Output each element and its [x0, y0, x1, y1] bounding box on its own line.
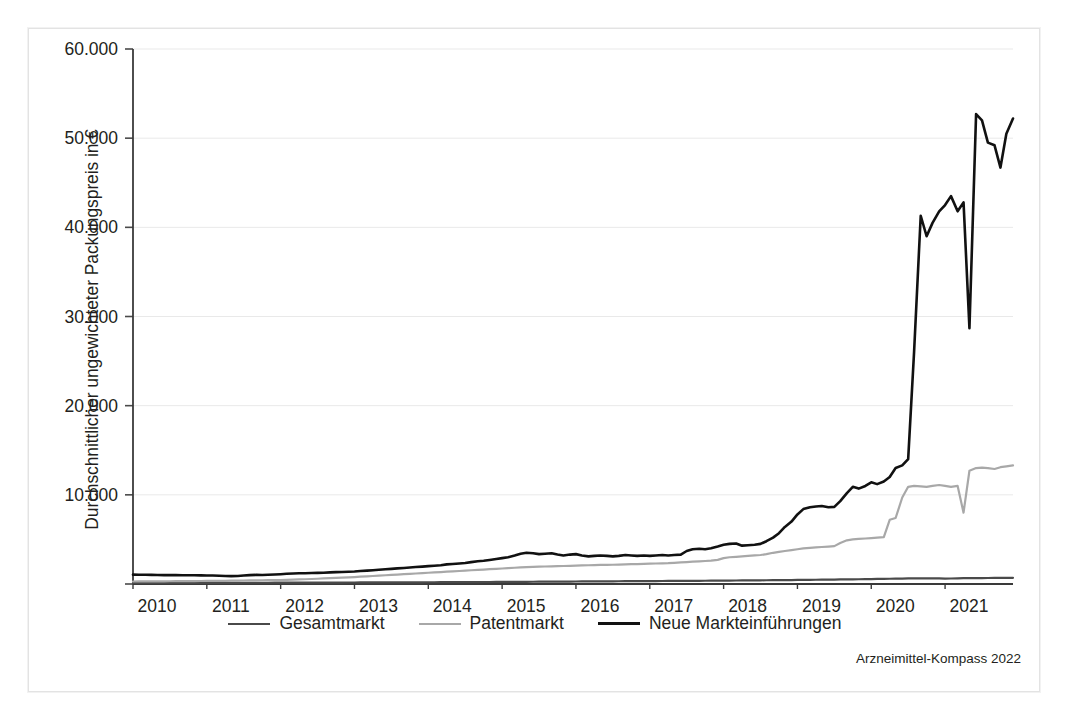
legend-label-patentmarkt: Patentmarkt [470, 613, 564, 634]
legend-swatch-neue-markteinfuehrungen [598, 622, 640, 625]
y-tick-label: 40.000 [64, 217, 118, 237]
legend-swatch-gesamtmarkt [228, 623, 270, 625]
y-tick-label: 30.000 [64, 307, 118, 327]
legend-item-patentmarkt[interactable]: Patentmarkt [419, 613, 564, 634]
plot-container: 10.00020.00030.00040.00050.00060.000 201… [29, 29, 1041, 693]
legend-item-gesamtmarkt[interactable]: Gesamtmarkt [228, 613, 384, 634]
series-line-neue-markteinf-hrungen [133, 114, 1013, 576]
line-chart-svg: 10.00020.00030.00040.00050.00060.000 201… [29, 29, 1041, 693]
source-note: Arzneimittel-Kompass 2022 [856, 651, 1021, 666]
y-tick-label: 10.000 [64, 485, 118, 505]
y-tick-label: 50.000 [64, 128, 118, 148]
y-tick-labels-group: 10.00020.00030.00040.00050.00060.000 [64, 39, 118, 505]
y-tick-label: 60.000 [64, 39, 118, 59]
data-series-group [133, 114, 1013, 583]
legend-label-neue-markteinfuehrungen: Neue Markteinführungen [649, 613, 842, 634]
chart-card: Durchschnittlicher ungewichteter Packung… [28, 28, 1040, 692]
chart-page: Durchschnittlicher ungewichteter Packung… [0, 0, 1077, 723]
gridlines-group [133, 49, 1013, 495]
y-tick-marks-group [125, 49, 133, 495]
legend-item-neue-markteinfuehrungen[interactable]: Neue Markteinführungen [598, 613, 842, 634]
y-tick-label: 20.000 [64, 396, 118, 416]
legend-label-gesamtmarkt: Gesamtmarkt [279, 613, 384, 634]
legend-swatch-patentmarkt [419, 623, 461, 625]
chart-legend: Gesamtmarkt Patentmarkt Neue Markteinfüh… [29, 613, 1041, 634]
